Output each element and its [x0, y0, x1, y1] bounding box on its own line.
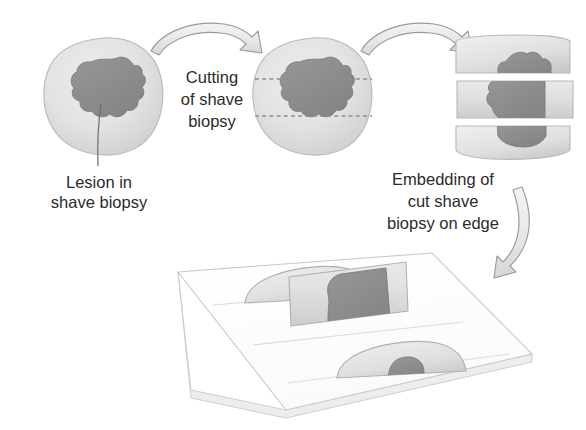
shave-biopsy-diagram: Lesion in shave biopsy Cutting of shave …: [0, 0, 586, 430]
lesion-blob-1: [71, 57, 145, 117]
cutting-label-line2: of shave: [181, 90, 243, 108]
cut-piece-middle: [457, 78, 573, 122]
embedding-label-line2: cut shave: [408, 192, 479, 210]
arrow-stage2-to-stage3: [361, 23, 472, 55]
lesion-label-line1: Lesion in: [66, 173, 132, 191]
figure-canvas: Lesion in shave biopsy Cutting of shave …: [0, 0, 586, 430]
embedding-label-line3: biopsy on edge: [387, 214, 499, 232]
embedding-label-line1: Embedding of: [392, 170, 494, 188]
stage4-glass-slide: [178, 253, 532, 418]
cut-piece-top: [456, 35, 570, 80]
stage1-intact-shave-biopsy: [44, 38, 163, 166]
cutting-label-line1: Cutting: [186, 68, 238, 86]
stage2-shave-biopsy-with-cut-lines: [253, 38, 372, 155]
lesion-blob-2: [280, 57, 354, 117]
lesion-label-line2: shave biopsy: [51, 193, 148, 211]
cut-piece-bottom: [456, 122, 570, 159]
lesion-fragment-middle: [487, 78, 545, 122]
cutting-label-line3: biopsy: [188, 112, 236, 130]
stage3-cut-shave-biopsy: [456, 35, 573, 159]
arrow-stage3-to-slide: [494, 187, 529, 278]
arrow-stage1-to-stage2: [151, 23, 262, 55]
